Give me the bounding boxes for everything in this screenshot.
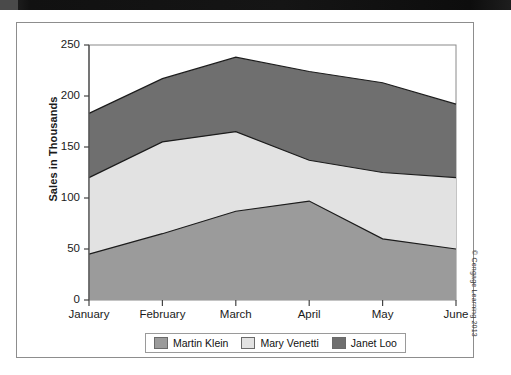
- y-tick-label: 150: [40, 140, 80, 152]
- y-tick-label: 50: [40, 242, 80, 254]
- legend-swatch-icon: [154, 337, 168, 349]
- scan-artifact-strip: [0, 0, 511, 10]
- y-tick-label: 200: [40, 89, 80, 101]
- x-tick-label: June: [411, 308, 501, 320]
- legend-entry: Janet Loo: [332, 337, 397, 349]
- legend-label: Martin Klein: [173, 337, 228, 349]
- legend-entry: Mary Venetti: [241, 337, 318, 349]
- chart-legend: Martin KleinMary VenettiJanet Loo: [145, 333, 406, 353]
- y-tick-label: 250: [40, 38, 80, 50]
- legend-label: Mary Venetti: [260, 337, 318, 349]
- copyright-notice: © Cengage Learning 2013: [471, 250, 478, 350]
- legend-entry: Martin Klein: [154, 337, 228, 349]
- legend-swatch-icon: [241, 337, 255, 349]
- legend-swatch-icon: [332, 337, 346, 349]
- stacked-area-chart: Sales in Thousands 050100150200250 Janua…: [17, 23, 475, 359]
- y-tick-label: 0: [40, 293, 80, 305]
- y-tick-label: 100: [40, 191, 80, 203]
- figure-frame: Sales in Thousands 050100150200250 Janua…: [16, 22, 474, 358]
- legend-label: Janet Loo: [351, 337, 397, 349]
